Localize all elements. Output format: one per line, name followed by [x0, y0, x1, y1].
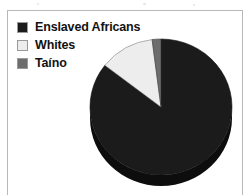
- legend-swatch-enslaved-africans: [17, 22, 28, 33]
- pie-chart-figure: Enslaved Africans Whites Taíno: [0, 0, 250, 195]
- legend-label-enslaved-africans: Enslaved Africans: [35, 21, 140, 34]
- legend-swatch-taino: [17, 58, 28, 69]
- legend-label-whites: Whites: [35, 39, 75, 52]
- legend-item-enslaved-africans: Enslaved Africans: [17, 19, 140, 36]
- legend-item-taino: Taíno: [17, 55, 140, 72]
- legend-label-taino: Taíno: [35, 57, 67, 70]
- scan-speck: [143, 3, 146, 5]
- scan-speck: [193, 4, 195, 6]
- scan-speck: [37, 3, 39, 5]
- legend-swatch-whites: [17, 40, 28, 51]
- figure-border-box: Enslaved Africans Whites Taíno: [7, 10, 243, 195]
- chart-legend: Enslaved Africans Whites Taíno: [17, 19, 140, 73]
- legend-item-whites: Whites: [17, 37, 140, 54]
